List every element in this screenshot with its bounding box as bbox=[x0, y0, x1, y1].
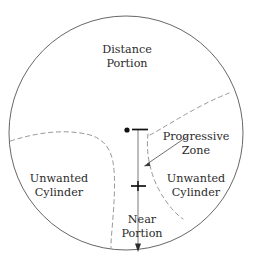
lens-diagram-canvas: Distance Portion Progressive Zone Unwant… bbox=[0, 0, 253, 267]
near-portion-label-line1: Near bbox=[128, 213, 157, 226]
progressive-zone-label-line2: Zone bbox=[182, 144, 211, 157]
distance-portion-label-line2: Portion bbox=[106, 57, 147, 70]
progressive-zone-label-line1: Progressive bbox=[163, 130, 230, 143]
progressive-zone-leader-arrow-icon bbox=[144, 162, 151, 166]
fitting-cross-dot-marker bbox=[124, 127, 129, 132]
lens-diagram: Distance Portion Progressive Zone Unwant… bbox=[0, 0, 253, 267]
unwanted-cylinder-right-label-line1: Unwanted bbox=[167, 172, 225, 185]
meridian-arrow-icon bbox=[135, 244, 141, 253]
unwanted-cylinder-left-label-line2: Cylinder bbox=[35, 186, 84, 199]
near-portion-label-line2: Portion bbox=[121, 227, 162, 240]
unwanted-cylinder-left-label-line1: Unwanted bbox=[30, 172, 88, 185]
distance-portion-label-line1: Distance bbox=[102, 43, 152, 56]
unwanted-cylinder-right-label-line2: Cylinder bbox=[172, 186, 221, 199]
right-upper-zone-boundary-dashed bbox=[150, 93, 229, 135]
